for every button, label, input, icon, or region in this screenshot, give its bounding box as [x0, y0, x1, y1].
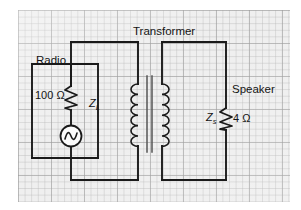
ac-voltage-source	[61, 126, 82, 147]
load-impedance-symbol: Z	[89, 97, 96, 109]
primary-resistance-label: 100 Ω	[35, 90, 65, 101]
transformer-secondary-coil	[162, 84, 169, 146]
load-impedance-subscript: L	[96, 103, 100, 112]
source-impedance-subscript: s	[213, 117, 217, 126]
resistor-4-ohm	[220, 108, 232, 130]
transformer-label: Transformer	[133, 26, 195, 38]
secondary-loop	[162, 42, 226, 180]
transformer-primary-coil	[131, 84, 138, 146]
load-impedance-label: ZL	[89, 98, 100, 112]
transformer-core	[147, 76, 152, 152]
radio-label: Radio	[36, 55, 66, 67]
source-impedance-symbol: Z	[206, 111, 213, 123]
source-impedance-label: Zs	[206, 112, 216, 126]
resistor-100-ohm	[65, 86, 77, 110]
secondary-resistance-label: 4 Ω	[233, 113, 250, 124]
circuit-diagram-figure: Transformer Radio Speaker 100 Ω ZL Zs 4 …	[0, 0, 301, 210]
primary-outer-loop	[71, 42, 138, 180]
speaker-label: Speaker	[232, 84, 275, 96]
